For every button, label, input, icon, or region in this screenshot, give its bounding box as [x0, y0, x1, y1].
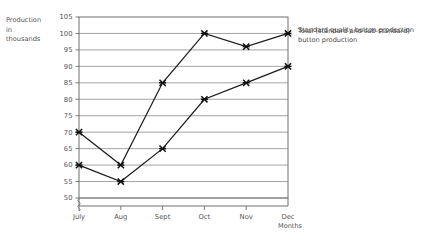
x-axis-tick-label: Nov — [240, 213, 253, 221]
x-axis-tick-label: Sept — [155, 213, 171, 221]
data-point-marker — [243, 80, 250, 86]
y-axis-title-line: Production — [6, 16, 41, 24]
data-point-marker — [201, 96, 208, 102]
line-chart: 10510095908580757065605550 JulyAugSeptOc… — [0, 0, 446, 238]
plot-border-group — [79, 17, 288, 198]
y-axis-title-line: in — [6, 26, 12, 34]
x-axis-tick-label: July — [72, 213, 85, 221]
series-line — [79, 66, 288, 181]
legend-group: Total (standard and sub-standard)button … — [297, 26, 414, 44]
series-2 — [76, 63, 292, 184]
y-axis-ticks-group — [76, 17, 80, 198]
y-axis-title-line: thousands — [6, 35, 41, 43]
legend-label-series-1: button production — [298, 36, 357, 44]
y-axis-tick-label: 105 — [60, 13, 73, 21]
data-point-marker — [117, 162, 124, 168]
plot-border — [79, 17, 288, 198]
data-point-marker — [117, 178, 124, 184]
y-axis-tick-label: 100 — [60, 30, 73, 38]
y-axis-tick-label: 85 — [64, 79, 73, 87]
x-axis-title: Months — [278, 222, 303, 230]
x-axis-tick-label: Oct — [199, 213, 211, 221]
x-axis-tick-label: Aug — [114, 213, 127, 221]
data-point-marker — [243, 44, 250, 50]
x-axis-tick-label: Dec — [281, 213, 294, 221]
data-point-marker — [201, 30, 208, 36]
y-axis-tick-label: 60 — [64, 161, 73, 169]
y-axis-tick-label: 80 — [64, 96, 73, 104]
x-axis-tick-labels-group: JulyAugSeptOctNovDec — [72, 213, 295, 221]
y-axis-tick-label: 55 — [64, 178, 73, 186]
chart-canvas: 10510095908580757065605550 JulyAugSeptOc… — [0, 0, 446, 238]
y-axis-tick-label: 95 — [64, 46, 73, 54]
x-axis-group — [79, 198, 288, 210]
data-series-group — [76, 30, 292, 184]
data-point-marker — [159, 146, 166, 152]
y-axis-tick-label: 75 — [64, 112, 73, 120]
y-axis-tick-label: 90 — [64, 63, 73, 71]
legend-label-series-2: Standard quality button production — [298, 26, 414, 34]
y-axis-tick-label: 65 — [64, 145, 73, 153]
data-point-marker — [159, 80, 166, 86]
y-axis-tick-label: 50 — [64, 194, 73, 202]
y-axis-tick-label: 70 — [64, 129, 73, 137]
y-axis-tick-labels-group: 10510095908580757065605550 — [60, 13, 73, 202]
